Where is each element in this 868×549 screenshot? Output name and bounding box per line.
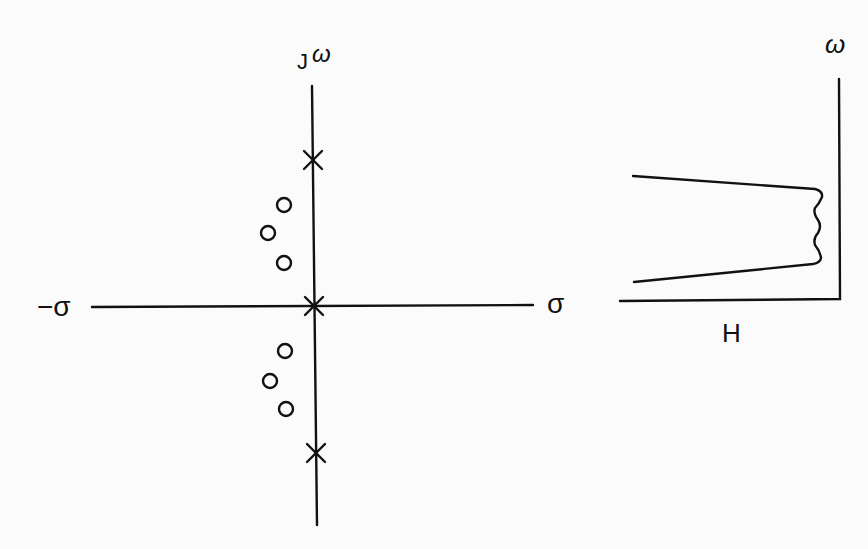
- pole-zero-diagram: J ω −σ σ ω H: [0, 0, 868, 549]
- zero-marker-6: [279, 402, 293, 416]
- response-horizontal-axis-label: H: [722, 318, 741, 348]
- zero-marker-5: [263, 374, 277, 388]
- pos-real-axis-label: σ: [547, 288, 564, 319]
- imag-axis-j-label: J: [297, 49, 308, 74]
- response-curve: [633, 176, 822, 282]
- response-axes: [620, 79, 840, 301]
- imag-axis-omega-label: ω: [312, 40, 331, 67]
- zero-marker-2: [261, 226, 275, 240]
- zero-marker-4: [278, 344, 292, 358]
- neg-real-axis-label: −σ: [37, 291, 71, 322]
- zero-marker-3: [277, 256, 291, 270]
- zero-marker-1: [277, 198, 291, 212]
- response-vertical-axis-label: ω: [825, 29, 845, 59]
